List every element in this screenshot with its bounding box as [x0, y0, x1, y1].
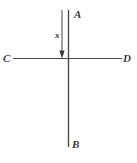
angle-arrow-head-icon	[59, 51, 64, 59]
angle-measure-label-x: x	[55, 31, 60, 40]
point-label-a: A	[74, 9, 81, 20]
point-label-d: D	[123, 53, 131, 64]
geometry-diagram: A B C D x	[0, 0, 137, 163]
point-label-c: C	[3, 53, 10, 64]
diagram-canvas	[0, 0, 137, 163]
point-label-b: B	[72, 139, 79, 150]
